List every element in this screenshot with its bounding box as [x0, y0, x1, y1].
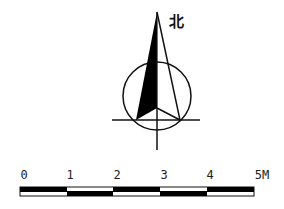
scale-bar — [20, 187, 254, 196]
north-label: 北 — [169, 10, 184, 31]
scale-label-4: 4 — [206, 168, 213, 182]
scale-label-3: 3 — [160, 168, 167, 182]
scale-label-0: 0 — [20, 168, 27, 182]
scale-label-2: 2 — [113, 168, 120, 182]
north-arrow-icon — [0, 0, 284, 209]
scale-label-1: 1 — [66, 168, 73, 182]
scale-label-5m: 5M — [255, 168, 269, 182]
